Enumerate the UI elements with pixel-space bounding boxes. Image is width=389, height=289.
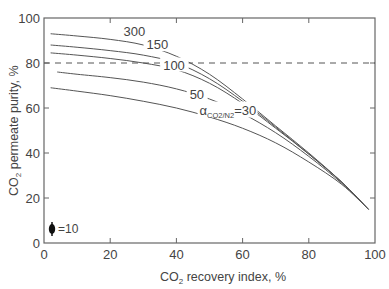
- curves: [51, 34, 369, 210]
- y-tick-label: 60: [26, 101, 40, 116]
- chart: 020406080100020406080100 30015010050αCO2…: [0, 0, 389, 289]
- curve-50: [57, 72, 368, 209]
- y-tick-label: 20: [26, 191, 40, 206]
- curve-label-50: 50: [190, 87, 204, 102]
- x-tick-label: 40: [169, 247, 183, 262]
- curve-300: [51, 34, 369, 210]
- y-axis-label: CO2 permeate purity, %: [7, 65, 23, 196]
- error-bar-label: =10: [58, 222, 79, 236]
- curve-label-300: 300: [123, 24, 145, 39]
- y-tick-label: 40: [26, 146, 40, 161]
- y-tick-label: 100: [18, 11, 40, 26]
- x-tick-label: 20: [103, 247, 117, 262]
- y-tick-label: 80: [26, 56, 40, 71]
- x-axis-label: CO2 recovery index, %: [160, 270, 286, 286]
- x-tick-label: 100: [364, 247, 386, 262]
- curve-150: [51, 45, 369, 209]
- axis-ticks: [44, 18, 375, 243]
- curve-label-100: 100: [163, 58, 185, 73]
- x-tick-label: 80: [302, 247, 316, 262]
- x-tick-label: 60: [235, 247, 249, 262]
- y-tick-label: 0: [33, 236, 40, 251]
- x-tick-label: 0: [40, 247, 47, 262]
- curve-labels: 30015010050αCO2/N2=30: [120, 24, 257, 120]
- curve-label-150: 150: [147, 37, 169, 52]
- plot-frame: [44, 18, 375, 243]
- error-bar-symbol: =10: [49, 222, 79, 236]
